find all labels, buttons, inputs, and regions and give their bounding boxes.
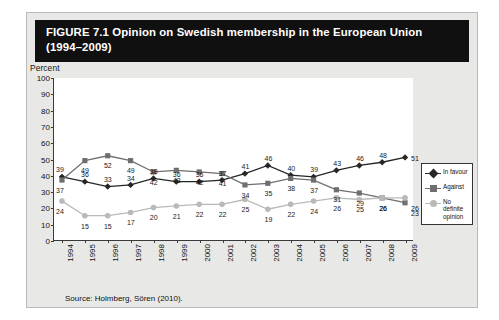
data-point-marker (59, 198, 65, 204)
x-axis-tick-mark (383, 240, 384, 243)
data-point-value-label: 51 (411, 154, 419, 161)
data-point-marker (379, 159, 385, 165)
x-axis-tick-mark (200, 240, 201, 243)
x-axis-tick-label: 1994 (66, 244, 75, 262)
x-axis-tick-mark (360, 240, 361, 243)
data-point-value-label: 22 (287, 211, 295, 218)
data-point-marker (402, 154, 408, 160)
legend-item-label: Against (441, 183, 464, 190)
x-axis-tick-label: 1997 (134, 244, 143, 262)
x-axis-tick-label: 2003 (272, 244, 281, 262)
data-point-marker (127, 182, 133, 188)
data-point-value-label: 41 (219, 180, 227, 187)
data-point-marker (357, 190, 362, 195)
x-axis-tick-mark (291, 240, 292, 243)
data-point-value-label: 34 (242, 191, 250, 198)
data-point-value-label: 21 (173, 212, 181, 219)
data-point-value-label: 37 (56, 186, 64, 193)
x-axis-tick-mark (131, 240, 132, 243)
data-point-marker (174, 203, 180, 209)
data-point-marker (105, 183, 111, 189)
x-axis-tick-label: 2004 (295, 244, 304, 262)
data-point-value-label: 42 (196, 178, 204, 185)
y-axis-tick-mark (51, 225, 54, 226)
data-point-value-label: 36 (196, 171, 204, 178)
data-point-value-label: 49 (81, 167, 89, 174)
data-point-marker (105, 213, 111, 219)
y-axis-tick-mark (51, 78, 54, 79)
data-point-marker (379, 195, 385, 201)
x-axis-tick-mark (108, 240, 109, 243)
y-axis-tick-mark (51, 208, 54, 209)
x-axis-tick-label: 1996 (111, 244, 120, 262)
legend-item[interactable]: In favour (425, 168, 469, 178)
data-point-value-label: 25 (242, 206, 250, 213)
x-axis-tick-label: 1995 (88, 244, 97, 262)
legend-marker-icon (425, 199, 441, 208)
legend-item-label: No definite opinion (441, 198, 469, 220)
x-axis-tick-label: 2007 (364, 244, 373, 262)
data-point-value-label: 46 (356, 155, 364, 162)
data-point-value-label: 17 (127, 219, 135, 226)
data-point-value-label: 39 (310, 166, 318, 173)
data-point-value-label: 39 (56, 166, 64, 173)
x-axis-tick-mark (337, 240, 338, 243)
data-point-value-label: 40 (287, 164, 295, 171)
data-point-value-label: 26 (333, 204, 341, 211)
x-axis-tick-mark (62, 240, 63, 243)
y-axis-tick-mark (51, 160, 54, 161)
chart-plot-area: 0102030405060708090100199419951996199719… (53, 78, 413, 241)
data-point-value-label: 37 (310, 186, 318, 193)
data-point-marker (128, 210, 134, 216)
data-point-value-label: 31 (333, 196, 341, 203)
legend-item-label: In favour (441, 168, 468, 175)
x-axis-tick-label: 2000 (203, 244, 212, 262)
data-point-value-label: 15 (81, 222, 89, 229)
x-axis-tick-label: 1999 (180, 244, 189, 262)
data-point-value-label: 43 (333, 159, 341, 166)
data-point-marker (288, 176, 293, 181)
data-point-value-label: 38 (150, 168, 158, 175)
chart-legend: In favourAgainstNo definite opinion (421, 163, 473, 225)
x-axis-tick-label: 2009 (410, 244, 419, 262)
data-point-value-label: 24 (310, 207, 318, 214)
data-point-value-label: 38 (287, 185, 295, 192)
data-point-value-label: 15 (104, 222, 112, 229)
legend-marker-icon (425, 184, 441, 193)
legend-item[interactable]: No definite opinion (425, 198, 469, 220)
y-axis-tick-mark (51, 94, 54, 95)
data-point-marker (59, 177, 64, 182)
data-point-marker (333, 167, 339, 173)
y-axis-tick-mark (51, 241, 54, 242)
figure-title-bar: FIGURE 7.1 Opinion on Swedish membership… (35, 20, 469, 62)
series-line (62, 156, 405, 203)
x-axis-tick-mark (223, 240, 224, 243)
data-point-marker (82, 178, 88, 184)
y-axis-label: Percent (30, 63, 60, 73)
legend-item[interactable]: Against (425, 183, 469, 193)
x-axis-tick-label: 1998 (157, 244, 166, 262)
figure-source: Source: Holmberg, Sören (2010). (65, 294, 183, 303)
figure-title: FIGURE 7.1 Opinion on Swedish membership… (46, 25, 459, 54)
data-point-marker (265, 162, 271, 168)
y-axis-tick-mark (51, 127, 54, 128)
data-point-marker (402, 195, 408, 201)
x-axis-tick-label: 2006 (341, 244, 350, 262)
data-point-value-label: 48 (379, 151, 387, 158)
data-point-marker (334, 187, 339, 192)
x-axis-tick-label: 2002 (249, 244, 258, 262)
data-point-marker (402, 200, 407, 205)
series-line (62, 198, 405, 216)
data-point-marker (128, 158, 133, 163)
x-axis-tick-mark (154, 240, 155, 243)
data-point-marker (288, 202, 294, 208)
figure-page: FIGURE 7.1 Opinion on Swedish membership… (0, 0, 499, 320)
data-point-value-label: 43 (173, 176, 181, 183)
y-axis-tick-mark (51, 111, 54, 112)
data-point-marker (242, 182, 247, 187)
y-axis-tick-mark (51, 176, 54, 177)
data-point-value-label: 49 (127, 167, 135, 174)
x-axis-tick-label: 2008 (387, 244, 396, 262)
x-axis-tick-mark (245, 240, 246, 243)
data-point-value-label: 24 (56, 207, 64, 214)
